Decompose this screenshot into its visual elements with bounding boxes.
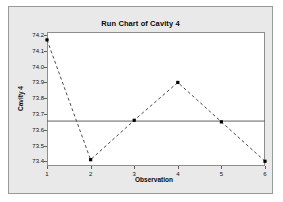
- plot-canvas: [47, 32, 265, 166]
- data-point-markers: [45, 38, 266, 163]
- y-tick-label: 74.1: [18, 48, 44, 54]
- data-point-marker: [133, 119, 136, 122]
- y-tick-label: 74.2: [18, 32, 44, 38]
- y-tick-label: 73.4: [18, 158, 44, 164]
- y-tick-label: 73.5: [18, 143, 44, 149]
- x-tick-mark: [47, 166, 48, 169]
- data-point-marker: [263, 160, 266, 163]
- y-tick-label: 73.7: [18, 111, 44, 117]
- y-tick-label: 73.8: [18, 95, 44, 101]
- data-point-marker: [89, 158, 92, 161]
- x-tick-mark: [265, 166, 266, 169]
- x-tick-mark: [91, 166, 92, 169]
- y-tick-label: 74.0: [18, 64, 44, 70]
- x-tick-mark: [134, 166, 135, 169]
- run-chart: Run Chart of Cavity 4 Cavity 4 73.473.57…: [9, 7, 272, 193]
- y-tick-label: 73.9: [18, 79, 44, 85]
- x-tick-mark: [221, 166, 222, 169]
- data-point-marker: [45, 38, 48, 41]
- data-series-line: [47, 40, 265, 161]
- y-axis-ticks: 73.473.573.673.773.873.974.074.174.2: [9, 32, 44, 166]
- x-axis-title: Observation: [45, 176, 263, 183]
- y-tick-label: 73.6: [18, 127, 44, 133]
- data-point-marker: [220, 120, 223, 123]
- x-tick-mark: [178, 166, 179, 169]
- chart-panel: Run Chart of Cavity 4 Cavity 4 73.473.57…: [8, 6, 273, 194]
- data-point-marker: [176, 81, 179, 84]
- chart-title: Run Chart of Cavity 4: [9, 19, 272, 28]
